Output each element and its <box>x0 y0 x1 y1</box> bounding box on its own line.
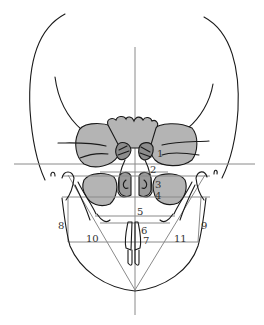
label-4: 4 <box>155 190 161 201</box>
label-1: 1 <box>157 148 163 159</box>
label-3: 3 <box>155 179 161 190</box>
label-10: 10 <box>86 233 99 244</box>
label-7: 7 <box>143 235 149 246</box>
label-2: 2 <box>150 164 156 175</box>
maxillary-sinuses <box>83 174 186 206</box>
label-11: 11 <box>174 233 187 244</box>
cranium-outline <box>30 14 239 180</box>
label-5: 5 <box>137 206 143 217</box>
label-8: 8 <box>58 220 64 231</box>
maxillary-sinus-left <box>83 174 117 206</box>
label-9: 9 <box>201 220 207 231</box>
mandible-outline <box>62 198 206 291</box>
orbit-right <box>149 124 197 166</box>
skull-cephalometric-diagram: 1 2 3 4 5 6 7 8 9 10 11 <box>0 0 264 325</box>
incisors <box>125 222 141 265</box>
